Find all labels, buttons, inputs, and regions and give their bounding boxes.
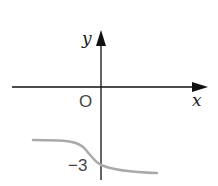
- origin-label: O: [79, 92, 92, 112]
- y-intercept-label: −3: [68, 156, 87, 176]
- y-axis-arrow-icon: [96, 30, 106, 46]
- x-axis-label: x: [192, 90, 202, 110]
- graph-diagram: y x O −3: [0, 0, 218, 186]
- y-axis-label: y: [82, 28, 92, 48]
- function-curve: [33, 140, 157, 173]
- graph-canvas: [0, 0, 218, 186]
